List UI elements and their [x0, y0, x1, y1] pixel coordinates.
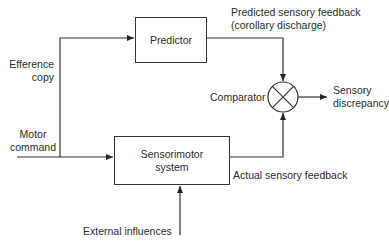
sensorimotor-block: Sensorimotor system	[114, 136, 230, 185]
comparator-label: Comparator	[210, 91, 265, 104]
actual-feedback-arrow	[229, 113, 283, 157]
predicted-feedback-label: Predicted sensory feedback (corollary di…	[231, 6, 361, 32]
efference-copy-label: Efference copy	[4, 58, 54, 84]
sensorimotor-label-2: system	[155, 161, 188, 174]
external-influences-label: External influences	[83, 225, 172, 238]
motor-command-label: Motor command	[8, 128, 58, 154]
actual-feedback-label: Actual sensory feedback	[233, 169, 347, 182]
predicted-feedback-arrow	[206, 38, 283, 81]
sensorimotor-label-1: Sensorimotor	[141, 148, 203, 161]
predictor-label: Predictor	[150, 34, 192, 47]
sensory-discrepancy-label: Sensory discrepancy	[333, 84, 389, 110]
predictor-block: Predictor	[135, 17, 207, 63]
